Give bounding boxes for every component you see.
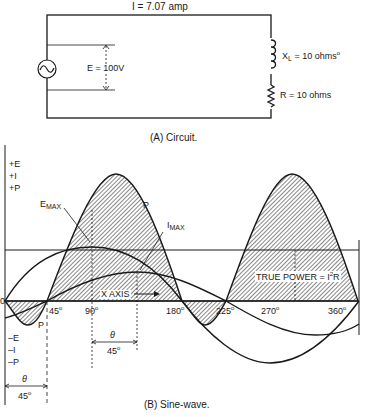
imax-subscript: MAX: [170, 224, 185, 231]
degree-symbol: o: [95, 305, 98, 311]
degree-symbol: o: [276, 305, 279, 311]
sine-wave-caption: (B) Sine-wave.: [144, 400, 210, 410]
p-label-bottom: P: [38, 321, 44, 330]
tick-360: 360o: [328, 305, 346, 316]
tick-270: 270o: [261, 305, 279, 316]
positive-e-label: +E: [9, 160, 20, 169]
circuit-diagram: [38, 15, 276, 118]
degree-symbol: o: [337, 50, 340, 56]
power-lobe-1: [47, 174, 182, 301]
voltage-label: E = 100V: [86, 64, 125, 73]
true-power-text: TRUE POWER = I: [256, 272, 330, 282]
degree-symbol: o: [343, 305, 346, 311]
true-power-label: TRUE POWER = I2R: [255, 271, 341, 282]
resistor-label: R = 10 ohms: [280, 91, 331, 100]
inductor-value: = 10 ohmso: [292, 51, 340, 61]
positive-p-label: +P: [9, 184, 20, 193]
circuit-caption: (A) Circuit.: [150, 133, 197, 143]
theta-middle: θ: [110, 331, 115, 340]
negative-e-label: –E: [8, 334, 19, 343]
current-label: I = 7.07 amp: [132, 2, 188, 12]
theta-left: θ: [22, 375, 27, 384]
degree-symbol: o: [28, 390, 31, 396]
tick-180: 180o: [166, 305, 184, 316]
tick-90: 90o: [85, 305, 98, 316]
tick-225: 225o: [216, 305, 234, 316]
inductor-label: XL = 10 ohmso: [282, 50, 340, 62]
theta-left-value: 45o: [18, 390, 31, 401]
p-label-top: P: [143, 201, 149, 210]
theta-middle-value: 45o: [107, 345, 120, 356]
imax-label: IMAX: [167, 221, 185, 231]
degree-symbol: o: [231, 305, 234, 311]
x-axis-label: X AXIS: [100, 290, 131, 299]
tick-45: 45o: [49, 305, 62, 316]
degree-symbol: o: [117, 345, 120, 351]
negative-p-label: –P: [8, 358, 19, 367]
true-power-r: R: [333, 272, 340, 282]
degree-symbol: o: [181, 305, 184, 311]
negative-i-label: –I: [8, 346, 16, 355]
emax-subscript: MAX: [46, 203, 61, 210]
emax-label: EMAX: [40, 200, 61, 210]
circuit-wire-loop: [47, 15, 271, 118]
origin-label: 0: [0, 297, 5, 306]
degree-symbol: o: [59, 305, 62, 311]
positive-i-label: +I: [9, 172, 17, 181]
